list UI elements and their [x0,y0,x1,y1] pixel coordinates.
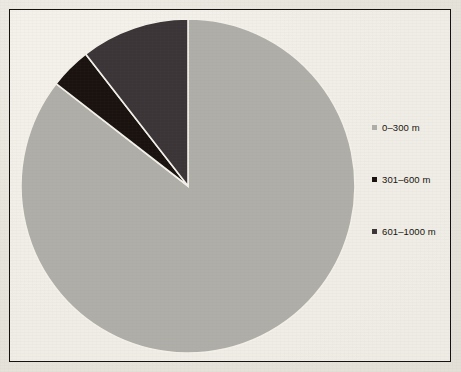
legend-label-301-600: 301–600 m [382,174,430,185]
legend-swatch-0-300 [372,125,377,130]
legend-swatch-601-1000 [372,229,377,234]
legend-item-0-300[interactable]: 0–300 m [372,120,456,134]
legend-label-0-300: 0–300 m [382,122,420,133]
legend-label-601-1000: 601–1000 m [382,226,436,237]
legend-item-301-600[interactable]: 301–600 m [372,172,456,186]
pie-slice-group [21,19,355,353]
legend-item-601-1000[interactable]: 601–1000 m [372,224,456,238]
chart-legend: 0–300 m 301–600 m 601–1000 m [372,120,456,238]
legend-swatch-301-600 [372,177,377,182]
